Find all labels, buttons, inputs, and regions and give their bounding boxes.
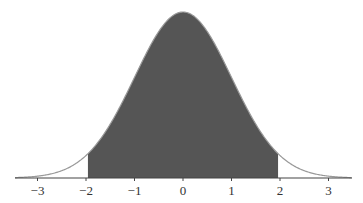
x-tick-label: 1 <box>228 183 235 198</box>
normal-distribution-chart: −3−2−10123 <box>0 0 363 203</box>
x-tick-label: −2 <box>79 183 93 198</box>
x-tick-label: 0 <box>180 183 187 198</box>
x-tick-label: 3 <box>325 183 332 198</box>
shaded-area <box>88 12 278 178</box>
x-tick-label: −1 <box>128 183 142 198</box>
x-tick-label: 2 <box>277 183 284 198</box>
x-axis-ticks: −3−2−10123 <box>31 178 332 198</box>
x-tick-label: −3 <box>31 183 45 198</box>
